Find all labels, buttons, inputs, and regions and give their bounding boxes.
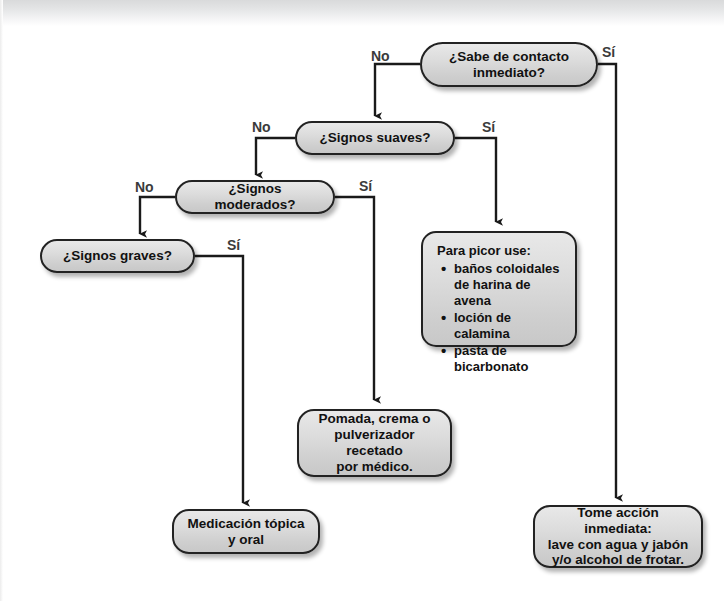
edge-si-contacto [598,64,616,498]
edge-si-moderados [335,197,374,400]
edge-no-moderados [140,197,175,234]
node-signos-graves[interactable]: ¿Signos graves? [40,239,195,273]
list-item: baños coloidales de harina de avena [454,261,565,308]
edge-label-si-moderados: Sí [359,178,372,194]
edge-no-suaves [256,138,295,175]
node-signos-moderados[interactable]: ¿Signos moderados? [175,180,335,214]
node-line: Pomada, crema o [319,411,431,426]
node-line: ¿Sabe de contacto [449,49,569,64]
node-pomada-text: Pomada, crema o pulverizador recetado po… [299,411,450,475]
node-signos-suaves-text: ¿Signos suaves? [309,130,440,146]
node-line: ¿Signos moderados? [214,181,295,212]
flowchart-canvas: ¿Sabe de contacto inmediato? ¿Signos sua… [0,0,724,601]
edge-si-graves [195,256,243,503]
edge-label-si-graves: Sí [227,237,240,253]
para-picor-list: baños coloidales de harina de avena loci… [437,261,565,374]
node-line: y oral [228,532,264,547]
node-para-picor-use[interactable]: Para picor use: baños coloidales de hari… [421,231,577,347]
edge-si-suaves [455,138,496,222]
node-line: por médico. [336,459,413,474]
edge-label-no-contacto: No [371,48,390,64]
node-line: inmediato? [473,65,545,80]
node-line: Tome acción inmediata: [577,505,659,536]
para-picor-heading: Para picor use: [437,243,565,258]
edge-label-si-suaves: Sí [482,119,495,135]
node-sabe-de-contacto-inmediato-text: ¿Sabe de contacto inmediato? [439,49,579,81]
edge-label-no-moderados: No [135,179,154,195]
node-signos-graves-text: ¿Signos graves? [53,248,182,264]
node-line: ¿Signos suaves? [319,130,430,145]
list-item: pasta de bicarbonato [454,343,565,374]
node-line: pulverizador recetado [334,427,414,458]
edge-no-contacto [375,64,420,116]
node-tome-accion-text: Tome acción inmediata: lave con agua y j… [535,505,701,569]
node-medicacion-text: Medicación tópica y oral [177,516,314,548]
node-line: lave con agua y jabón [548,537,688,552]
node-line: ¿Signos graves? [63,248,172,263]
edge-label-no-suaves: No [252,119,271,135]
node-signos-suaves[interactable]: ¿Signos suaves? [295,121,455,155]
node-line: Medicación tópica [187,516,304,531]
node-pomada-crema-pulverizador[interactable]: Pomada, crema o pulverizador recetado po… [297,409,452,477]
edge-label-si-contacto: Sí [602,44,615,60]
node-tome-accion-inmediata[interactable]: Tome acción inmediata: lave con agua y j… [533,505,703,568]
node-para-picor-use-content: Para picor use: baños coloidales de hari… [423,233,575,384]
node-medicacion-topica-y-oral[interactable]: Medicación tópica y oral [172,509,320,554]
node-line: y/o alcohol de frotar. [552,552,684,567]
node-signos-moderados-text: ¿Signos moderados? [177,181,333,213]
list-item: loción de calamina [454,310,565,341]
node-sabe-de-contacto-inmediato[interactable]: ¿Sabe de contacto inmediato? [420,42,598,87]
